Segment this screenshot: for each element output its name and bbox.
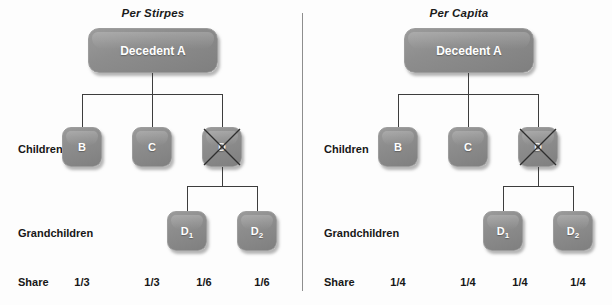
panel-per-capita: Per Capita Decedent A Children B C D	[306, 0, 612, 305]
node-decedent-a-left: Decedent A	[88, 28, 218, 73]
node-label-child-c: C	[148, 141, 156, 153]
panel-title-per-stirpes: Per Stirpes	[0, 7, 306, 19]
gc-letter: D	[251, 225, 259, 237]
node-child-b-right: B	[378, 127, 418, 167]
node-grandchild-d2-right: D2	[553, 211, 593, 251]
connector-to-child-c	[468, 94, 469, 127]
connector-to-d2-right	[573, 186, 574, 211]
panel-divider	[302, 13, 303, 291]
connector-root-stem	[152, 73, 153, 94]
node-label-child-c: C	[464, 141, 472, 153]
node-label-grandchild-d2: D2	[567, 225, 579, 237]
node-label-grandchild-d2: D2	[251, 225, 263, 237]
node-label-decedent-a: Decedent A	[120, 44, 186, 58]
node-label-grandchild-d1: D1	[181, 225, 193, 237]
share-value-d2-left: 1/6	[245, 276, 279, 288]
node-child-d-deceased-left: D	[202, 127, 242, 167]
node-label-child-d: D	[218, 141, 226, 153]
row-label-grandchildren-left: Grandchildren	[18, 227, 93, 239]
node-grandchild-d2-left: D2	[237, 211, 277, 251]
node-child-c-right: C	[448, 127, 488, 167]
gc-subscript: 2	[259, 231, 263, 240]
node-label-decedent-a: Decedent A	[436, 44, 502, 58]
node-grandchild-d1-right: D1	[483, 211, 523, 251]
share-value-d1-right: 1/4	[503, 276, 537, 288]
share-value-c-left: 1/3	[135, 276, 169, 288]
node-label-child-d: D	[534, 141, 542, 153]
connector-d-stem-left	[222, 167, 223, 186]
row-label-children-left: Children	[18, 143, 63, 155]
panel-per-stirpes: Per Stirpes Decedent A Children B C D	[0, 0, 306, 305]
node-child-c-left: C	[132, 127, 172, 167]
node-label-grandchild-d1: D1	[497, 225, 509, 237]
gc-letter: D	[567, 225, 575, 237]
node-label-child-b: B	[394, 141, 402, 153]
share-value-b-right: 1/4	[381, 276, 415, 288]
gc-letter: D	[497, 225, 505, 237]
connector-to-child-b	[398, 94, 399, 127]
row-label-children-right: Children	[324, 143, 369, 155]
share-value-d2-right: 1/4	[561, 276, 595, 288]
connector-grandchildren-bus-left	[187, 186, 258, 187]
connector-grandchildren-bus-right	[503, 186, 574, 187]
share-value-b-left: 1/3	[65, 276, 99, 288]
node-decedent-a-right: Decedent A	[404, 28, 534, 73]
connector-to-child-d	[538, 94, 539, 127]
node-child-b-left: B	[62, 127, 102, 167]
share-value-c-right: 1/4	[451, 276, 485, 288]
connector-to-d2-left	[257, 186, 258, 211]
node-child-d-deceased-right: D	[518, 127, 558, 167]
share-value-d1-left: 1/6	[187, 276, 221, 288]
panel-title-per-capita: Per Capita	[306, 7, 612, 19]
connector-d-stem-right	[538, 167, 539, 186]
row-label-share-right: Share	[324, 276, 355, 288]
connector-to-d1-left	[187, 186, 188, 211]
node-grandchild-d1-left: D1	[167, 211, 207, 251]
connector-to-child-c	[152, 94, 153, 127]
connector-to-child-d	[222, 94, 223, 127]
gc-subscript: 1	[505, 231, 509, 240]
row-label-grandchildren-right: Grandchildren	[324, 227, 399, 239]
row-label-share-left: Share	[18, 276, 49, 288]
connector-root-stem	[468, 73, 469, 94]
inheritance-distribution-diagram: Per Stirpes Decedent A Children B C D	[0, 0, 612, 305]
connector-to-child-b	[82, 94, 83, 127]
node-label-child-b: B	[78, 141, 86, 153]
gc-subscript: 2	[575, 231, 579, 240]
connector-to-d1-right	[503, 186, 504, 211]
gc-letter: D	[181, 225, 189, 237]
gc-subscript: 1	[189, 231, 193, 240]
